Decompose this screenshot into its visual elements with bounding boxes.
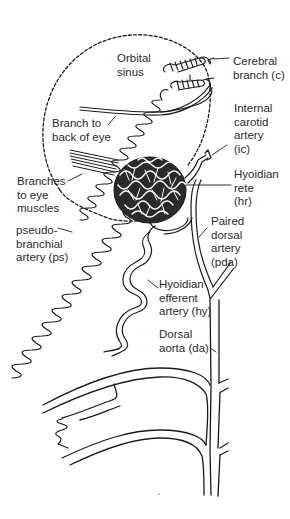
label-hyoidian-efferent-artery: Hyoidian efferent artery (hy) [159,278,211,319]
label-dorsal-aorta: Dorsal aorta (da) [159,328,209,355]
anatomical-diagram: Orbital sinus Cerebral branch (c) Branch… [0,0,290,519]
label-hyoidian-rete: Hyoidian rete (hr) [234,168,279,209]
leader-paired-dorsal [199,228,207,237]
branches-to-eye-muscles [70,150,118,175]
branch-to-back-of-eye [80,85,210,112]
label-internal-carotid-artery: Internal carotid artery (ic) [234,102,272,156]
hyoidian-rete [114,157,186,223]
leader-eye-muscles [68,174,82,181]
label-cerebral-branch: Cerebral branch (c) [233,55,285,82]
label-branch-to-back-of-eye: Branch to back of eye [52,117,111,144]
label-pseudobranchial-artery: pseudo- branchial artery (ps) [16,224,68,265]
gill-arches [43,368,210,495]
internal-carotid-artery [185,150,211,183]
label-branches-to-eye-muscles: Branches to eye muscles [17,175,66,216]
dorsal-aorta [210,298,228,496]
leader-hyoidian-efferent [148,280,158,288]
label-paired-dorsal-artery: Paired dorsal artery (pda) [211,215,244,269]
label-orbital-sinus: Orbital sinus [117,52,151,79]
leader-internal-carotid [212,145,227,155]
dot-mark [158,493,159,494]
